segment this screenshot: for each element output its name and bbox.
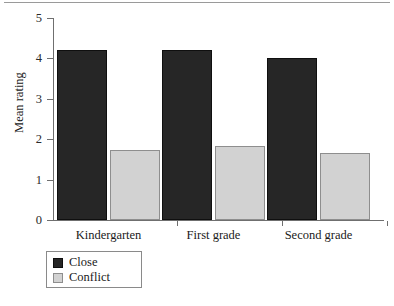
top-divider-rule xyxy=(4,2,390,3)
bar-conflict-kindergarten[interactable] xyxy=(110,150,160,220)
bar-close-kindergarten[interactable] xyxy=(57,50,107,220)
legend-swatch-conflict-icon xyxy=(53,273,63,283)
x-axis-line xyxy=(53,220,384,221)
y-tick-label-2: 2 xyxy=(22,133,42,145)
chart-legend: Close Conflict xyxy=(46,251,142,288)
bar-close-first-grade[interactable] xyxy=(162,50,212,220)
y-tick-label-4: 4 xyxy=(22,52,42,64)
bar-conflict-first-grade[interactable] xyxy=(215,146,265,220)
y-tick-0 xyxy=(47,220,53,221)
legend-label-close: Close xyxy=(69,256,97,269)
x-tick-2 xyxy=(387,221,388,226)
legend-item-close[interactable]: Close xyxy=(53,255,135,270)
plot-area xyxy=(53,18,383,220)
y-tick-label-1: 1 xyxy=(22,174,42,186)
y-tick-label-5: 5 xyxy=(22,12,42,24)
legend-label-conflict: Conflict xyxy=(69,271,110,284)
x-tick-0 xyxy=(177,221,178,226)
legend-item-conflict[interactable]: Conflict xyxy=(53,270,135,285)
y-tick-label-0: 0 xyxy=(22,214,42,226)
bar-conflict-second-grade[interactable] xyxy=(320,153,370,220)
legend-swatch-close-icon xyxy=(53,258,63,268)
x-tick-1 xyxy=(282,221,283,226)
figure-container: Mean rating 012345 KindergartenFirst gra… xyxy=(0,0,394,306)
y-tick-label-3: 3 xyxy=(22,93,42,105)
bar-close-second-grade[interactable] xyxy=(267,58,317,220)
x-axis-label-second-grade: Second grade xyxy=(247,228,390,242)
